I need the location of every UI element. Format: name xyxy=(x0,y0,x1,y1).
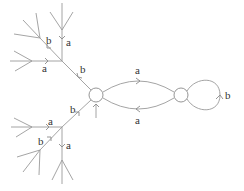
right-vertex xyxy=(174,88,188,102)
fan-upper-horizontal-1 xyxy=(14,51,32,61)
upper-tree: b a a b xyxy=(10,3,91,90)
fan-upper-vertical-3 xyxy=(62,12,73,30)
label-upper-trunk: b xyxy=(80,63,86,75)
label-bottom-arc: a xyxy=(135,114,140,126)
fan-lower-horizontal-3 xyxy=(16,127,32,137)
label-lower-horizontal: a xyxy=(48,115,53,127)
label-loop: b xyxy=(225,89,231,101)
fan-lower-diagonal-1 xyxy=(17,150,40,157)
label-top-arc: a xyxy=(135,64,140,76)
edge-upper-trunk xyxy=(62,61,91,90)
label-upper-diagonal: b xyxy=(46,34,52,46)
diagram-canvas: b a a b b a b xyxy=(0,0,244,191)
label-upper-vertical: a xyxy=(66,36,71,48)
label-lower-trunk: b xyxy=(70,103,76,115)
left-vertex xyxy=(89,88,103,102)
fan-upper-horizontal-3 xyxy=(15,61,32,71)
label-upper-horizontal: a xyxy=(42,62,47,74)
fan-lower-diagonal-2 xyxy=(23,150,40,172)
graph-diagram: b a a b b a b xyxy=(0,0,244,191)
fan-lower-vertical-1 xyxy=(52,160,62,180)
fan-upper-diagonal-3 xyxy=(14,34,40,38)
fan-upper-vertical-1 xyxy=(50,12,62,30)
edge-loop xyxy=(187,80,220,110)
core-graph: a a b xyxy=(89,64,231,126)
fan-lower-diagonal-3 xyxy=(39,150,40,175)
label-lower-vertical: a xyxy=(66,139,71,151)
lower-tree: b a b a xyxy=(11,100,91,184)
fan-lower-vertical-3 xyxy=(62,160,73,180)
edge-lower-trunk xyxy=(62,100,91,127)
fan-lower-horizontal-1 xyxy=(14,118,32,127)
label-lower-diagonal: b xyxy=(38,135,44,147)
